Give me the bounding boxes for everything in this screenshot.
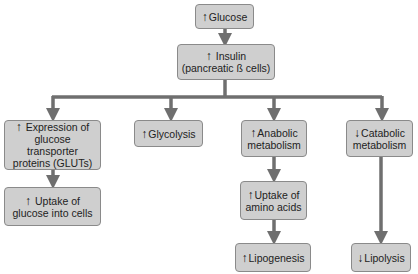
up-arrow-icon: ↑ [141,127,147,141]
up-arrow-icon: ↑ [25,194,31,208]
node-lipolysis: ↓Lipolysis [351,243,411,272]
node-catabolic: ↓Catabolicmetabolism [346,120,413,157]
insulin-effects-diagram: ↑Glucose ↑ Insulin(pancreatic ß cells) ↑… [0,0,418,274]
up-arrow-icon: ↑ [241,251,247,265]
node-insulin: ↑ Insulin(pancreatic ß cells) [177,44,275,80]
up-arrow-icon: ↑ [248,188,254,202]
node-lipogenesis: ↑Lipogenesis [235,243,311,272]
up-arrow-icon: ↑ [250,126,256,140]
down-arrow-icon: ↓ [354,126,360,140]
node-glycolysis: ↑Glycolysis [134,120,203,147]
node-anabolic: ↑Anabolicmetabolism [241,120,307,157]
up-arrow-icon: ↑ [16,120,22,134]
node-expression-gluts: ↑ Expression ofglucose transporterprotei… [4,120,101,170]
node-uptake-amino: ↑Uptake ofamino acids [240,181,307,220]
up-arrow-icon: ↑ [202,10,208,24]
down-arrow-icon: ↓ [357,251,363,265]
up-arrow-icon: ↑ [206,49,212,63]
node-uptake-glucose: ↑ Uptake ofglucose into cells [4,187,101,226]
node-glucose: ↑Glucose [195,4,254,29]
